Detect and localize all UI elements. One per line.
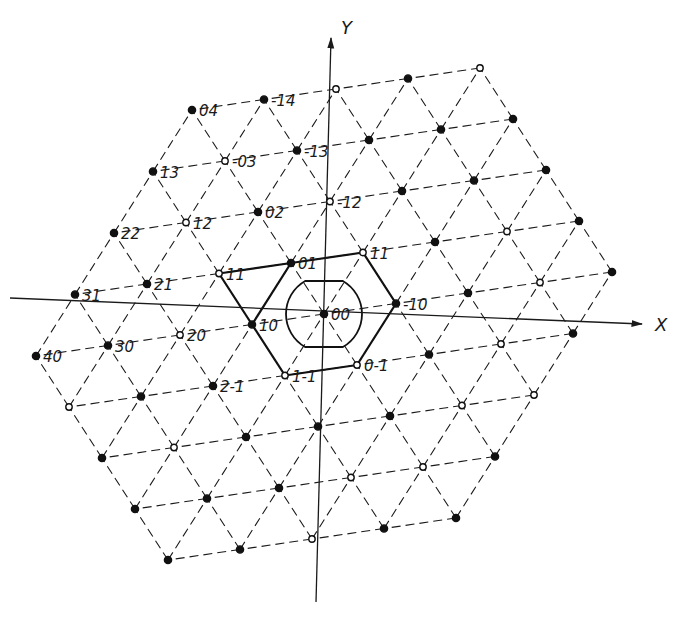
lattice-node [392, 300, 399, 307]
lattice-line [312, 529, 384, 540]
lattice-line [69, 397, 141, 408]
lattice-node [66, 404, 72, 410]
lattice-line [318, 427, 351, 478]
lattice-node [248, 321, 255, 328]
lattice-node [452, 514, 459, 521]
lattice-line [462, 344, 501, 406]
lattice-line [153, 110, 192, 172]
lattice-node [354, 362, 360, 368]
lattice-line [135, 499, 207, 510]
lattice-line [462, 395, 534, 406]
lattice-line [297, 89, 336, 151]
node-label: 20 [187, 327, 206, 345]
lattice-node [464, 289, 471, 296]
node-label: 00 [331, 306, 350, 324]
lattice-line [423, 406, 462, 468]
lattice-line [474, 170, 546, 181]
reciprocal-lattice-diagram: X Y 04-1413-03-13221202-1231211101114030… [0, 0, 678, 619]
lattice-nodes [32, 65, 615, 564]
lattice-line [507, 232, 540, 283]
lattice-node [104, 342, 111, 349]
lattice-line [501, 344, 534, 395]
lattice-node [260, 96, 267, 103]
node-label: 21 [154, 276, 173, 294]
lattice-line [534, 334, 573, 396]
x-axis-label: X [654, 314, 668, 335]
lattice-node [164, 556, 171, 563]
lattice-line [135, 509, 168, 560]
node-label: 04 [199, 102, 218, 120]
node-label: 1-1 [292, 368, 317, 386]
lattice-line [402, 181, 474, 192]
lattice-node [504, 228, 510, 234]
lattice-node [110, 229, 117, 236]
lattice-node [365, 136, 372, 143]
node-label: 0-1 [364, 357, 389, 375]
lattice-line [225, 100, 264, 162]
lattice-line [540, 283, 573, 334]
lattice-line [318, 365, 357, 427]
lattice-line [408, 79, 441, 130]
lattice-node [348, 474, 354, 480]
y-axis-label: Y [341, 17, 354, 38]
lattice-line [336, 89, 369, 140]
lattice-line [279, 478, 351, 489]
lattice-line [186, 161, 225, 223]
lattice-node [509, 115, 516, 122]
lattice-node [216, 270, 222, 276]
lattice-line [423, 467, 456, 518]
node-label: 31 [82, 287, 101, 305]
lattice-line [351, 416, 390, 478]
lattice-node [491, 453, 498, 460]
lattice-line [219, 212, 258, 274]
lattice-line [384, 467, 423, 529]
lattice-node [420, 464, 426, 470]
lattice-line [108, 284, 147, 346]
lattice-node [360, 249, 366, 255]
lattice-line [369, 130, 441, 141]
lattice-line [369, 140, 402, 191]
lattice-line [207, 437, 246, 499]
lattice-node [575, 217, 582, 224]
lattice-node [425, 351, 432, 358]
lattice-line [441, 130, 474, 181]
lattice-line [318, 416, 390, 427]
lattice-line [147, 223, 186, 285]
lattice-line [441, 68, 480, 130]
lattice-node [209, 382, 216, 389]
lattice-line [441, 119, 513, 130]
lattice-node [309, 536, 315, 542]
lattice-line [168, 499, 207, 561]
lattice-line [174, 386, 213, 448]
lattice-line [468, 283, 540, 294]
lattice-line [423, 457, 495, 468]
lattice-node [242, 433, 249, 440]
lattice-line [279, 488, 312, 539]
lattice-line [102, 397, 141, 459]
node-label: 22 [121, 225, 140, 243]
node-label: 01 [298, 255, 317, 273]
lattice-line [573, 272, 612, 334]
lattice-node [203, 495, 210, 502]
lattice-node [320, 310, 327, 317]
lattice-line [540, 221, 579, 283]
lattice-line [330, 140, 369, 202]
lattice-node [177, 332, 183, 338]
lattice-line [174, 448, 207, 499]
lattice-node [398, 187, 405, 194]
lattice-line [141, 386, 213, 397]
lattice-line [336, 79, 408, 90]
lattice-line [213, 325, 252, 387]
node-label: 11 [226, 266, 245, 284]
lattice-node [32, 352, 39, 359]
lattice-line [207, 488, 279, 499]
lattice-node [386, 412, 393, 419]
lattice-line [351, 467, 423, 478]
node-label: -10 [403, 296, 428, 314]
node-label: 2-1 [220, 378, 245, 396]
lattice-node [537, 279, 543, 285]
node-label: 40 [43, 348, 62, 366]
node-label: -13 [304, 143, 329, 161]
lattice-line [285, 314, 324, 376]
lattice-node [333, 86, 339, 92]
